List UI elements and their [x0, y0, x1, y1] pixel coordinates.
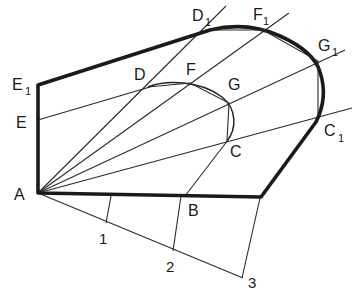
label-c: C [230, 143, 242, 160]
label-g: G [228, 76, 240, 93]
label-d1: D [192, 7, 204, 24]
inner-arc [148, 83, 234, 141]
point-labels: A E 1 E D F G C B D 1 F 1 G 1 C 1 1 2 3 [12, 6, 344, 291]
outer-outline [38, 27, 323, 197]
tick-1 [106, 196, 111, 223]
division-line-a-3 [38, 193, 243, 278]
label-b: B [188, 202, 199, 219]
inner-chords [148, 83, 229, 141]
division-construction [38, 140, 260, 278]
label-e: E [16, 114, 27, 131]
label-c1-sub: 1 [338, 132, 344, 144]
label-1: 1 [99, 230, 107, 247]
label-a: A [14, 186, 25, 203]
label-2: 2 [166, 258, 174, 275]
inner-curve [148, 83, 234, 141]
line-e-d [38, 87, 150, 120]
line-b-c [185, 140, 228, 196]
label-e1-sub: 1 [25, 85, 31, 97]
label-3: 3 [248, 274, 256, 291]
tick-2 [173, 196, 181, 251]
ray-a-f1 [38, 13, 289, 193]
label-f: F [186, 61, 196, 78]
label-g1-sub: 1 [332, 46, 338, 58]
geometric-construction-diagram: A E 1 E D F G C B D 1 F 1 G 1 C 1 1 2 3 [0, 0, 360, 291]
label-g1: G [318, 37, 330, 54]
label-e1: E [12, 76, 23, 93]
label-d: D [134, 66, 146, 83]
tick-3 [242, 198, 260, 278]
label-f1-sub: 1 [263, 15, 269, 27]
label-c1: C [324, 122, 336, 139]
outer-chords [210, 30, 318, 116]
ray-a-c1 [38, 108, 352, 193]
outer-contour [38, 27, 323, 197]
label-d1-sub: 1 [205, 16, 211, 28]
label-f1: F [253, 6, 263, 23]
